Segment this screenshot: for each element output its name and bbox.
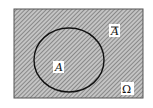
set-a-label: A [53, 61, 64, 74]
svg-text:Ω: Ω [122, 83, 131, 96]
svg-text:A: A [54, 61, 63, 74]
svg-text:A: A [110, 25, 119, 38]
complement-label: A [109, 24, 120, 38]
universe-label: Ω [121, 82, 134, 96]
venn-diagram: A A Ω [0, 0, 153, 108]
